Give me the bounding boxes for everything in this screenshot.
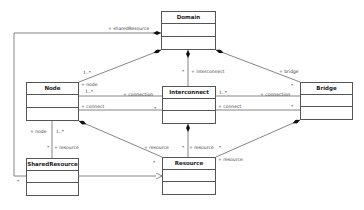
label-resource-bridge-role: + resource bbox=[218, 157, 243, 162]
class-sharedresource[interactable]: SharedResource bbox=[26, 158, 79, 196]
label-node-role-lower: + node bbox=[30, 129, 46, 134]
assoc-bridge-resource bbox=[216, 120, 300, 157]
label-bridge-mult: * bbox=[291, 83, 293, 88]
assoc-domain-bridge bbox=[216, 50, 300, 82]
label-connection-left-mult: * bbox=[154, 106, 156, 111]
class-sharedresource-operations bbox=[27, 183, 78, 196]
class-node-name: Node bbox=[27, 83, 78, 95]
label-interconnect-role: + interconnect bbox=[191, 69, 225, 74]
label-node-mult-domain: 1..* bbox=[83, 70, 91, 75]
class-domain-attributes bbox=[162, 24, 215, 37]
label-shared-resource-role: + sharedResource bbox=[108, 26, 149, 31]
class-resource-operations bbox=[163, 182, 215, 195]
class-interconnect-name: Interconnect bbox=[163, 87, 215, 99]
label-resource-node-mult: * bbox=[153, 160, 155, 165]
label-resource-ic-role: + resource bbox=[189, 145, 214, 150]
class-domain-name: Domain bbox=[162, 12, 215, 24]
assoc-domain-node bbox=[79, 50, 161, 82]
label-connection-left: + connection bbox=[123, 92, 153, 97]
class-interconnect[interactable]: Interconnect bbox=[162, 86, 216, 124]
class-interconnect-attributes bbox=[163, 99, 215, 111]
label-connect-right-mult: 1..* bbox=[219, 90, 227, 95]
label-resource-ic-mult-left: * bbox=[182, 145, 184, 150]
label-resource-shared-role: + resource bbox=[54, 145, 79, 150]
class-resource-name: Resource bbox=[163, 158, 215, 170]
label-interconnect-mult-domain: * bbox=[182, 69, 184, 74]
class-sharedresource-name: SharedResource bbox=[27, 159, 78, 171]
class-resource[interactable]: Resource bbox=[162, 157, 216, 195]
class-bridge-attributes bbox=[301, 95, 352, 107]
label-node-role: + node bbox=[81, 82, 97, 87]
class-domain-operations bbox=[162, 37, 215, 50]
label-node-lower-mult: 1..* bbox=[56, 129, 64, 134]
assoc-node-resource bbox=[79, 121, 162, 157]
class-sharedresource-attributes bbox=[27, 171, 78, 183]
class-bridge-name: Bridge bbox=[301, 83, 352, 95]
label-connect-left: + connect bbox=[81, 104, 104, 109]
label-resource-shared-mult: * bbox=[47, 145, 49, 150]
label-connection-right: + connection bbox=[260, 92, 290, 97]
label-connect-right: + connect bbox=[218, 104, 241, 109]
label-resource-ic-mult-right: * bbox=[219, 145, 221, 150]
class-interconnect-operations bbox=[163, 111, 215, 124]
class-domain[interactable]: Domain bbox=[161, 11, 216, 50]
class-bridge[interactable]: Bridge bbox=[300, 82, 353, 120]
class-resource-attributes bbox=[163, 170, 215, 182]
label-node-mult: 1..* bbox=[85, 89, 93, 94]
class-bridge-operations bbox=[301, 107, 352, 120]
label-bridge-role: + bridge bbox=[279, 69, 299, 74]
label-connect-bridge-mult: * bbox=[291, 104, 293, 109]
label-resource-node-role: + resource bbox=[144, 145, 169, 150]
class-node-attributes bbox=[27, 95, 78, 108]
class-node-operations bbox=[27, 108, 78, 121]
class-node[interactable]: Node bbox=[26, 82, 79, 121]
label-shared-mult-left: * bbox=[17, 179, 19, 184]
